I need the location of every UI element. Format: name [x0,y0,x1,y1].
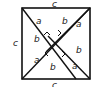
label-b-1: b [62,16,68,26]
pythagorean-diagram: c c c a b a b b a b a [0,0,93,87]
label-top-c: c [52,0,57,9]
label-b-3: b [76,45,82,55]
line-bottom-right [48,36,90,79]
label-a-3: a [34,55,40,65]
label-a-4: a [72,61,78,71]
label-b-4: b [50,62,56,72]
line-top-right [46,8,90,52]
label-a-1: a [36,16,42,26]
label-a-2: a [76,19,82,29]
label-b-2: b [34,34,40,44]
label-left-c: c [13,38,18,48]
line-top-left [22,8,76,79]
label-bottom-c: c [52,80,57,87]
